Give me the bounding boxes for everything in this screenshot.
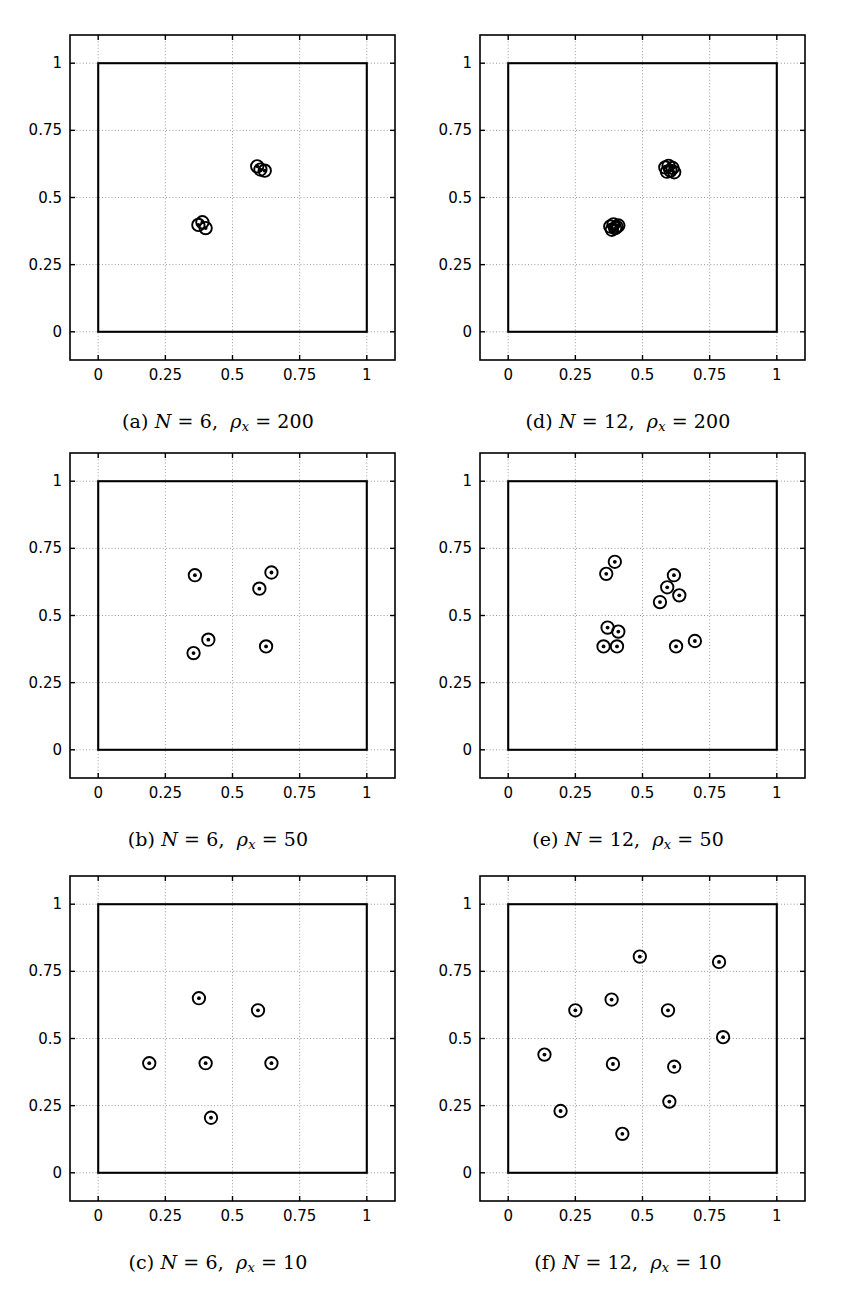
data-points-f xyxy=(538,950,729,1140)
y-tick-label: 0.5 xyxy=(38,1030,62,1048)
data-point xyxy=(717,1031,729,1043)
subplot-panel-f: 00.250.50.75100.250.50.751(f) N = 12, ρx… xyxy=(428,843,828,1277)
caption-label: (f) xyxy=(534,1251,556,1273)
grid-lines-a xyxy=(70,35,395,360)
scatter-plot-e: 00.250.50.75100.250.50.751 xyxy=(428,420,828,812)
data-point xyxy=(689,635,701,647)
x-tick-label: 0.5 xyxy=(221,1207,245,1225)
y-tick-label: 1 xyxy=(52,895,62,913)
grid-lines-c xyxy=(70,876,395,1201)
data-point xyxy=(189,569,201,581)
subplot-panel-e: 00.250.50.75100.250.50.751(e) N = 12, ρx… xyxy=(428,420,828,854)
subplot-panel-b: 00.250.50.75100.250.50.751(b) N = 6, ρx … xyxy=(18,420,418,854)
grid-lines-b xyxy=(70,453,395,778)
y-tick-label: 0 xyxy=(52,1164,62,1182)
data-point xyxy=(202,633,214,645)
x-tick-label: 1 xyxy=(362,784,372,802)
y-tick-label: 1 xyxy=(462,472,472,490)
caption-rho-value: 10 xyxy=(283,1251,307,1273)
x-tick-label: 0.25 xyxy=(149,366,182,384)
data-point xyxy=(143,1057,155,1069)
x-tick-label: 1 xyxy=(772,1207,782,1225)
caption-N-symbol: N xyxy=(563,1251,580,1273)
x-tick-label: 0.5 xyxy=(631,366,655,384)
y-tick-label: 1 xyxy=(462,54,472,72)
grid-lines-d xyxy=(480,35,805,360)
data-point xyxy=(569,1004,581,1016)
x-tick-label: 0.75 xyxy=(283,1207,316,1225)
y-tick-label: 0.25 xyxy=(29,1097,62,1115)
caption-N-value: 6 xyxy=(205,1251,217,1273)
y-tick-label: 0.75 xyxy=(29,539,62,557)
scatter-plot-b: 00.250.50.75100.250.50.751 xyxy=(18,420,418,812)
data-point xyxy=(609,556,621,568)
data-point xyxy=(187,647,199,659)
y-tick-label: 0 xyxy=(462,323,472,341)
x-tick-label: 0.75 xyxy=(693,1207,726,1225)
subplot-panel-a: 00.250.50.75100.250.50.751(a) N = 6, ρx … xyxy=(18,2,418,436)
y-tick-label: 0.25 xyxy=(439,256,472,274)
grid-lines-f xyxy=(480,876,805,1201)
scatter-plot-f: 00.250.50.75100.250.50.751 xyxy=(428,843,828,1235)
subplot-caption-c: (c) N = 6, ρx = 10 xyxy=(18,1251,418,1275)
data-point xyxy=(538,1048,550,1060)
caption-rho-value: 10 xyxy=(697,1251,721,1273)
y-tick-label: 0.75 xyxy=(29,962,62,980)
x-tick-label: 0.25 xyxy=(559,366,592,384)
scatter-plot-a: 00.250.50.75100.250.50.751 xyxy=(18,2,418,394)
data-point xyxy=(600,568,612,580)
data-point xyxy=(265,1057,277,1069)
subplot-panel-d: 00.250.50.75100.250.50.751(d) N = 12, ρx… xyxy=(428,2,828,436)
data-point xyxy=(260,640,272,652)
y-tick-label: 0.75 xyxy=(439,962,472,980)
y-tick-label: 1 xyxy=(52,54,62,72)
x-tick-label: 0.5 xyxy=(221,784,245,802)
data-point xyxy=(668,1061,680,1073)
data-point xyxy=(611,640,623,652)
data-point xyxy=(265,566,277,578)
y-tick-label: 0 xyxy=(462,1164,472,1182)
data-point xyxy=(673,589,685,601)
caption-rho-subscript: x xyxy=(662,1260,669,1275)
y-tick-label: 0.25 xyxy=(29,674,62,692)
y-tick-label: 0.5 xyxy=(448,1030,472,1048)
data-points-e xyxy=(597,556,701,653)
x-tick-label: 0 xyxy=(503,784,513,802)
x-tick-label: 0.75 xyxy=(693,366,726,384)
y-tick-label: 0 xyxy=(52,741,62,759)
caption-rho-subscript: x xyxy=(247,1260,254,1275)
y-tick-label: 0.5 xyxy=(38,607,62,625)
y-tick-label: 0 xyxy=(462,741,472,759)
caption-rho-symbol: ρx xyxy=(236,1251,255,1273)
subplot-panel-c: 00.250.50.75100.250.50.751(c) N = 6, ρx … xyxy=(18,843,418,1277)
x-tick-label: 0.5 xyxy=(221,366,245,384)
subplot-caption-f: (f) N = 12, ρx = 10 xyxy=(428,1251,828,1275)
caption-N-value: 12 xyxy=(608,1251,632,1273)
data-point xyxy=(634,950,646,962)
data-point xyxy=(661,581,673,593)
y-tick-label: 0.75 xyxy=(439,121,472,139)
data-point xyxy=(654,596,666,608)
y-tick-label: 0.5 xyxy=(38,189,62,207)
data-point xyxy=(252,1004,264,1016)
y-tick-label: 0.5 xyxy=(448,189,472,207)
caption-rho-symbol: ρx xyxy=(650,1251,669,1273)
x-tick-label: 0 xyxy=(503,366,513,384)
x-tick-label: 0 xyxy=(93,366,103,384)
x-tick-label: 0 xyxy=(93,784,103,802)
x-tick-label: 1 xyxy=(772,366,782,384)
x-tick-label: 0.25 xyxy=(559,1207,592,1225)
scatter-plot-c: 00.250.50.75100.250.50.751 xyxy=(18,843,418,1235)
x-tick-label: 0.75 xyxy=(693,784,726,802)
x-tick-label: 0.75 xyxy=(283,784,316,802)
x-tick-label: 0.25 xyxy=(149,1207,182,1225)
data-point xyxy=(199,1057,211,1069)
y-tick-label: 1 xyxy=(52,472,62,490)
caption-N-symbol: N xyxy=(160,1251,177,1273)
data-point xyxy=(597,640,609,652)
data-point xyxy=(193,992,205,1004)
data-point xyxy=(662,1004,674,1016)
x-tick-label: 0 xyxy=(93,1207,103,1225)
figure-container: 00.250.50.75100.250.50.751(a) N = 6, ρx … xyxy=(0,0,841,1303)
y-tick-label: 0 xyxy=(52,323,62,341)
